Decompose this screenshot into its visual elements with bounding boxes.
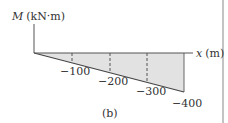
moment-diagram: M(kN·m) x(m) −100 −200 −300 −400 (b) (0, 0, 228, 123)
x-axis-label: x(m) (196, 47, 224, 60)
tick-label-200: −200 (98, 75, 128, 88)
tick-label-400: −400 (172, 97, 202, 110)
figure-caption: (b) (102, 107, 118, 120)
tick-label-100: −100 (60, 65, 90, 78)
m-axis-label: M(kN·m) (11, 10, 65, 23)
tick-label-300: −300 (136, 85, 166, 98)
